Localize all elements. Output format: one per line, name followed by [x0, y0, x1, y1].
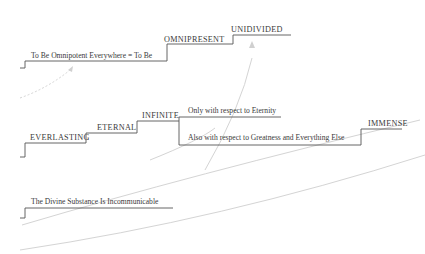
step-label-unidivided: UNIDIVIDED [231, 25, 283, 34]
immense-step-line [361, 129, 402, 145]
connector-curve-to-omnipotent [20, 70, 70, 98]
branch-lower-label: Also with respect to Greatness and Every… [188, 133, 345, 142]
branch-upper-label: Only with respect to Eternity [188, 106, 276, 115]
arrowhead-unidivided-icon [249, 41, 255, 48]
step-label-eternal: ETERNAL [97, 123, 136, 132]
step-label-infinite: INFINITE [142, 111, 179, 120]
row-eternity: EVERLASTING ETERNAL INFINITE Only with r… [20, 106, 408, 157]
step-label-omnipresent: OMNIPRESENT [164, 35, 225, 44]
concept-diagram: To Be Omnipotent Everywhere = To Be OMNI… [0, 0, 425, 254]
row-incommunicable: The Divine Substance Is Incommunicable [20, 197, 173, 218]
step-label-incommunicable: The Divine Substance Is Incommunicable [31, 197, 159, 206]
row1-start-tick [20, 61, 25, 68]
step-label-omnipotent: To Be Omnipotent Everywhere = To Be [31, 51, 153, 60]
row3-start-tick [20, 208, 25, 218]
faint-connectors [20, 41, 425, 250]
step-label-immense: IMMENSE [368, 119, 408, 128]
row2-start-tick [20, 143, 25, 157]
step-label-everlasting: EVERLASTING [30, 133, 90, 142]
arrowhead-omnipotent-icon [68, 66, 73, 72]
